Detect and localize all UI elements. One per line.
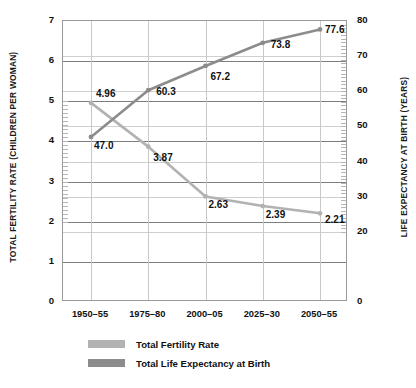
data-point-marker — [89, 135, 94, 140]
legend: Total Fertility RateTotal Life Expectanc… — [88, 336, 270, 374]
x-axis-tick-label: 2050–55 — [284, 309, 354, 319]
y-axis-right-tick-label: 60 — [357, 84, 381, 95]
y-axis-left-tick-label: 0 — [32, 295, 54, 306]
legend-swatch — [88, 340, 125, 348]
data-point-marker — [203, 194, 208, 199]
y-axis-right-tick-label: 20 — [357, 225, 381, 236]
series-layer — [63, 21, 348, 302]
y-axis-right-tick-label: 70 — [357, 49, 381, 60]
data-point-marker — [146, 144, 151, 149]
chart-canvas: TOTAL FERTILITY RATE (CHILDREN PER WOMAN… — [0, 0, 416, 388]
y-axis-right-tick-label: 0 — [357, 295, 381, 306]
data-point-marker — [146, 88, 151, 93]
y-axis-left-tick-label: 5 — [32, 94, 54, 105]
data-point-marker — [89, 100, 94, 105]
data-point-marker — [318, 211, 323, 216]
y-axis-left-tick-label: 1 — [32, 255, 54, 266]
y-axis-left-tick-label: 7 — [32, 14, 54, 25]
y-axis-right-title: LIFE EXPECTANCY AT BIRTH (YEARS) — [399, 13, 409, 301]
data-point-label: 2.63 — [209, 199, 228, 210]
data-point-label: 67.2 — [211, 71, 230, 82]
data-point-label: 73.8 — [271, 39, 290, 50]
y-axis-left-tick-label: 2 — [32, 215, 54, 226]
data-point-label: 47.0 — [94, 140, 113, 151]
legend-item[interactable]: Total Fertility Rate — [88, 336, 270, 352]
legend-item[interactable]: Total Life Expectancy at Birth — [88, 355, 270, 371]
data-point-label: 2.39 — [266, 209, 285, 220]
legend-swatch — [88, 359, 125, 367]
data-point-label: 2.21 — [325, 214, 344, 225]
y-axis-right-tick-label: 30 — [357, 190, 381, 201]
data-point-marker — [203, 64, 208, 69]
data-point-marker — [318, 27, 323, 32]
data-point-label: 4.96 — [96, 88, 115, 99]
data-point-marker — [260, 40, 265, 45]
y-axis-left-tick-label: 3 — [32, 175, 54, 186]
data-point-label: 77.6 — [325, 24, 344, 35]
y-axis-right-tick-label: 50 — [357, 119, 381, 130]
y-axis-right-tick-label: 80 — [357, 14, 381, 25]
y-axis-right-tick-label: 40 — [357, 155, 381, 166]
data-point-label: 3.87 — [153, 152, 172, 163]
data-point-label: 60.3 — [156, 86, 175, 97]
data-point-marker — [260, 204, 265, 209]
y-axis-left-title: TOTAL FERTILITY RATE (CHILDREN PER WOMAN… — [8, 13, 18, 301]
y-axis-left-tick-label: 4 — [32, 134, 54, 145]
legend-label: Total Fertility Rate — [136, 339, 219, 350]
legend-label: Total Life Expectancy at Birth — [136, 358, 270, 369]
y-axis-left-tick-label: 6 — [32, 54, 54, 65]
plot-area — [62, 20, 347, 301]
